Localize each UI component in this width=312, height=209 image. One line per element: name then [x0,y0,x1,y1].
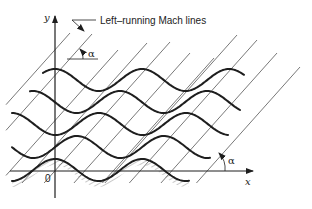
streamline [43,69,244,91]
alpha-label-bottom: α [228,155,235,166]
annotation-leader [72,20,96,31]
streamline [12,136,210,158]
x-axis-label: x [245,176,251,187]
mach-lines-diagram: y x 0 Left–running Mach lines α α [0,0,312,209]
origin-label: 0 [45,173,51,184]
alpha-label-top: α [88,48,95,59]
annotation-label: Left–running Mach lines [100,15,206,26]
angle-arc-top-icon [80,49,83,59]
angle-arc-bottom-icon [219,153,225,171]
y-axis-label: y [43,12,50,23]
mach-line [105,35,237,183]
wall-hatching [12,159,189,187]
mach-line [22,43,147,183]
mach-line [196,67,300,183]
